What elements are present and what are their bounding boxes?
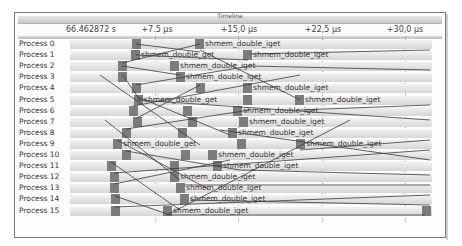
event-block[interactable] <box>113 139 122 149</box>
event-block[interactable] <box>129 106 138 116</box>
event-label: shmem_double_get <box>141 50 214 59</box>
event-label: shmem_double_iget <box>306 139 381 148</box>
event-block[interactable] <box>243 83 252 93</box>
event-block[interactable] <box>132 83 141 93</box>
event-block[interactable] <box>243 95 252 105</box>
title-bar[interactable]: Timeline <box>18 16 442 24</box>
event-block[interactable] <box>170 161 179 171</box>
event-label: shmem_double_iget <box>253 50 328 59</box>
event-block[interactable] <box>239 117 248 127</box>
time-ruler[interactable]: 66.462872 s+7.5 µs+15,0 µs+22,5 µs+30,0 … <box>18 24 442 36</box>
event-block[interactable] <box>122 150 131 160</box>
event-label: shmem_double_iget <box>238 128 313 137</box>
event-block[interactable] <box>134 95 143 105</box>
event-label: shmem_double_iget <box>249 117 324 126</box>
process-label: Process 9 <box>19 139 55 148</box>
event-block[interactable] <box>131 50 140 60</box>
event-block[interactable] <box>111 206 120 216</box>
window-shadow <box>446 14 448 240</box>
event-block[interactable] <box>132 39 141 49</box>
ruler-label: +22,5 µs <box>305 25 341 34</box>
event-label: shmem_double_iget <box>253 83 328 92</box>
event-block[interactable] <box>110 172 119 182</box>
event-block[interactable] <box>118 61 127 71</box>
event-block[interactable] <box>176 183 185 193</box>
process-label: Process 11 <box>19 161 59 170</box>
event-block[interactable] <box>133 117 142 127</box>
process-lane[interactable] <box>70 207 432 216</box>
process-label: Process 1 <box>19 50 55 59</box>
event-block[interactable] <box>422 206 431 216</box>
event-block[interactable] <box>195 39 204 49</box>
event-label: shmem_double_iget <box>186 72 261 81</box>
event-block[interactable] <box>176 72 185 82</box>
event-block[interactable] <box>208 150 217 160</box>
event-label: shmem_double_iget <box>223 161 298 170</box>
event-block[interactable] <box>122 128 131 138</box>
event-block[interactable] <box>163 206 172 216</box>
process-label: Process 13 <box>19 183 59 192</box>
event-block[interactable] <box>188 117 197 127</box>
event-label: shmem_double_iget <box>218 150 293 159</box>
ruler-label: 66.462872 s <box>66 25 116 34</box>
process-label: Process 5 <box>19 95 55 104</box>
process-label: Process 15 <box>19 206 59 215</box>
process-label: Process 6 <box>19 106 55 115</box>
event-label: shmem_double_iget <box>205 39 280 48</box>
event-block[interactable] <box>111 194 120 204</box>
event-label: shmem_double_get <box>123 139 196 148</box>
process-label: Process 12 <box>19 172 59 181</box>
event-label: shmem_double_iget <box>243 106 318 115</box>
event-block[interactable] <box>243 50 252 60</box>
process-label: Process 8 <box>19 128 55 137</box>
event-label: shmem_double_iget <box>180 61 255 70</box>
event-label: shmem_double_get <box>144 95 217 104</box>
ruler-label: +30,0 µs <box>387 25 423 34</box>
process-label: Process 3 <box>19 72 55 81</box>
process-label: Process 0 <box>19 39 55 48</box>
event-block[interactable] <box>296 139 305 149</box>
process-label: Process 10 <box>19 150 59 159</box>
process-label: Process 7 <box>19 117 55 126</box>
event-block[interactable] <box>237 139 246 149</box>
event-label: shmem_double_iget <box>173 206 248 215</box>
event-block[interactable] <box>170 172 179 182</box>
event-block[interactable] <box>180 194 189 204</box>
event-block[interactable] <box>118 72 127 82</box>
event-block[interactable] <box>233 106 242 116</box>
event-block[interactable] <box>181 150 190 160</box>
event-block[interactable] <box>170 61 179 71</box>
event-label: shmem_double_iget <box>180 172 255 181</box>
event-block[interactable] <box>196 83 205 93</box>
event-block[interactable] <box>178 128 187 138</box>
event-block[interactable] <box>110 183 119 193</box>
window-title: Timeline <box>18 12 442 19</box>
event-block[interactable] <box>213 161 222 171</box>
process-label: Process 2 <box>19 61 55 70</box>
process-label: Process 14 <box>19 194 59 203</box>
event-block[interactable] <box>295 95 304 105</box>
ruler-label: +7.5 µs <box>141 25 172 34</box>
event-block[interactable] <box>228 128 237 138</box>
event-label: shmem_double_iget <box>186 183 261 192</box>
process-label: Process 4 <box>19 83 55 92</box>
event-block[interactable] <box>107 161 116 171</box>
event-label: shmem_double_iget <box>305 95 380 104</box>
ruler-label: +15,0 µs <box>221 25 257 34</box>
event-label: shmem_double_iget <box>190 194 265 203</box>
event-block[interactable] <box>183 106 192 116</box>
